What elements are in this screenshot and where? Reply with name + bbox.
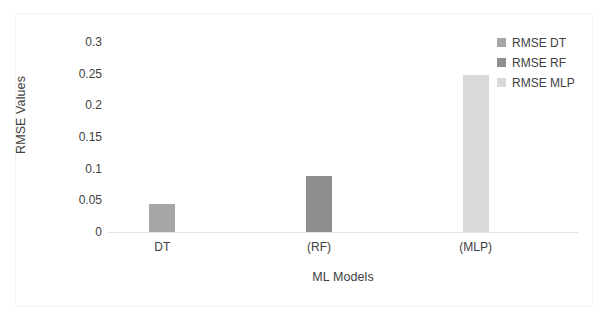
x-axis-tick-labels: DT(RF)(MLP): [108, 240, 578, 260]
bar-dt: [149, 204, 175, 233]
chart-legend: RMSE DTRMSE RFRMSE MLP: [497, 33, 597, 93]
x-axis-line: [108, 232, 578, 233]
bar-mlp: [463, 75, 489, 232]
y-axis-tick-labels: 00.050.10.150.20.250.3: [58, 0, 102, 320]
legend-item: RMSE DT: [497, 33, 597, 52]
y-axis-tick-label: 0.2: [58, 98, 102, 112]
bar-rf: [306, 176, 332, 232]
x-axis-tick-label: (MLP): [459, 240, 492, 254]
y-axis-tick-label: 0: [58, 225, 102, 239]
legend-swatch-icon: [497, 78, 506, 87]
legend-label: RMSE DT: [512, 36, 566, 50]
legend-label: RMSE MLP: [512, 76, 575, 90]
legend-item: RMSE RF: [497, 53, 597, 72]
legend-label: RMSE RF: [512, 56, 566, 70]
legend-item: RMSE MLP: [497, 73, 597, 92]
x-axis-title: ML Models: [108, 270, 578, 284]
y-axis-title: RMSE Values: [14, 60, 28, 170]
rmse-bar-chart: RMSE Values ML Models 00.050.10.150.20.2…: [0, 0, 607, 320]
y-axis-tick-label: 0.05: [58, 193, 102, 207]
legend-swatch-icon: [497, 38, 506, 47]
y-axis-tick-label: 0.1: [58, 162, 102, 176]
y-axis-tick-label: 0.3: [58, 35, 102, 49]
y-axis-tick-label: 0.25: [58, 67, 102, 81]
legend-swatch-icon: [497, 58, 506, 67]
x-axis-tick-label: (RF): [307, 240, 331, 254]
y-axis-tick-label: 0.15: [58, 130, 102, 144]
x-axis-tick-label: DT: [154, 240, 170, 254]
